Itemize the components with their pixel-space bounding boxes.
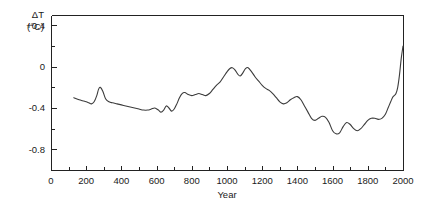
x-axis-title: Year bbox=[217, 189, 236, 200]
x-axis-ticks bbox=[52, 166, 404, 171]
x-tick-label: 2000 bbox=[392, 175, 413, 186]
plot-frame bbox=[52, 16, 404, 171]
y-axis-title-line-1: ΔT bbox=[32, 9, 44, 20]
x-axis-tick-labels: 0200400600800100012001400160018002000 bbox=[48, 175, 413, 186]
x-tick-label: 0 bbox=[48, 175, 53, 186]
y-axis-ticks bbox=[52, 26, 57, 171]
y-tick-label: 0 bbox=[40, 61, 45, 72]
x-tick-label: 1000 bbox=[216, 175, 237, 186]
x-tick-label: 200 bbox=[78, 175, 94, 186]
y-axis-tick-labels: +0.40-0.4-0.8 bbox=[26, 20, 45, 155]
y-tick-label: -0.4 bbox=[29, 102, 45, 113]
x-tick-label: 400 bbox=[113, 175, 129, 186]
y-axis-title-line-2: (°C) bbox=[27, 21, 44, 32]
y-tick-label: -0.8 bbox=[29, 144, 45, 155]
x-tick-label: 1400 bbox=[287, 175, 308, 186]
x-tick-label: 1800 bbox=[357, 175, 378, 186]
chart-svg: +0.40-0.4-0.8 02004006008001000120014001… bbox=[0, 0, 425, 216]
x-tick-label: 800 bbox=[184, 175, 200, 186]
temperature-anomaly-chart: +0.40-0.4-0.8 02004006008001000120014001… bbox=[0, 0, 425, 216]
x-tick-label: 1200 bbox=[252, 175, 273, 186]
x-tick-label: 1600 bbox=[322, 175, 343, 186]
x-tick-label: 600 bbox=[149, 175, 165, 186]
temperature-series-line bbox=[74, 46, 403, 134]
